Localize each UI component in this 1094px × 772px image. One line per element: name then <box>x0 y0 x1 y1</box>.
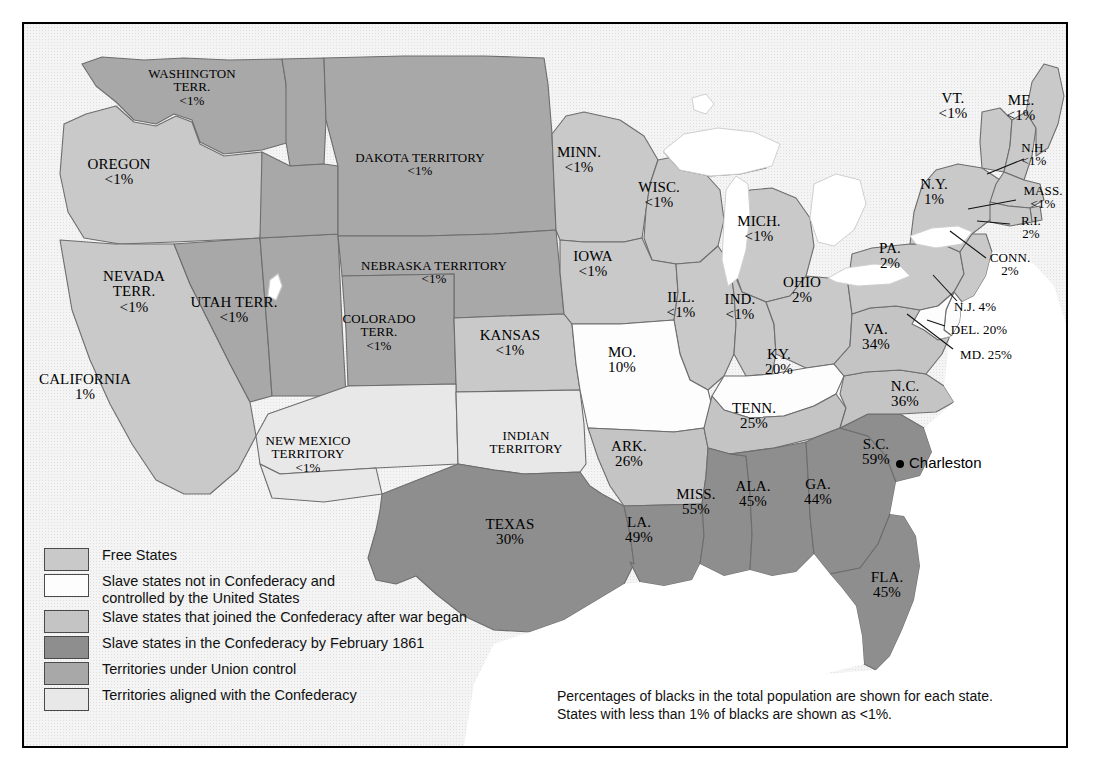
state-label-oregon: OREGON<1% <box>87 157 150 188</box>
state-name: UTAH TERR. <box>190 295 277 310</box>
state-name: N.J. 4% <box>954 299 996 314</box>
state-label-iowa: IOWA<1% <box>573 249 613 280</box>
state-percent: <1% <box>667 305 696 320</box>
state-percent: <1% <box>103 300 165 315</box>
map-frame: WASHINGTON TERR.<1%OREGON<1%CALIFORNIA1%… <box>22 22 1068 748</box>
state-percent: 49% <box>625 530 653 545</box>
state-name: WASHINGTON TERR. <box>148 67 235 94</box>
state-percent: 55% <box>676 502 715 517</box>
state-percent: <1% <box>1021 154 1047 167</box>
state-label-sc: S.C.59% <box>862 437 890 468</box>
state-label-ny: N.Y.1% <box>920 177 948 208</box>
state-percent: 26% <box>611 454 647 469</box>
legend-label: Slave states not in Confederacy andcontr… <box>102 573 335 607</box>
state-label-nj: N.J. 4% <box>954 298 996 314</box>
state-name: NEW MEXICO TERRITORY <box>266 434 351 461</box>
state-name: GA. <box>804 477 832 492</box>
state-name: TENN. <box>732 401 776 416</box>
state-label-nevada-terr: NEVADA TERR.<1% <box>103 269 165 315</box>
note-line-1: Percentages of blacks in the total popul… <box>557 687 993 705</box>
legend-item-free-states: Free States <box>44 547 544 571</box>
state-percent: 2% <box>1021 227 1041 240</box>
state-label-wisc: WISC.<1% <box>638 180 680 211</box>
state-name: VA. <box>862 322 890 337</box>
state-percent: 25% <box>732 416 776 431</box>
legend-label: Territories aligned with the Confederacy <box>102 687 357 704</box>
state-name: N.C. <box>891 379 920 394</box>
state-name: MICH. <box>737 214 780 229</box>
state-percent: <1% <box>361 272 507 285</box>
legend-label: Slave states that joined the Confederacy… <box>102 609 467 626</box>
state-name: MD. 25% <box>960 347 1012 362</box>
legend-label: Territories under Union control <box>102 661 296 678</box>
state-label-minn: MINN.<1% <box>557 145 601 176</box>
state-label-ala: ALA.45% <box>736 479 771 510</box>
legend-swatch-confederacy-feb <box>44 636 89 659</box>
state-percent: <1% <box>148 94 235 107</box>
state-percent: <1% <box>939 106 968 121</box>
state-label-vt: VT.<1% <box>939 91 968 122</box>
state-label-conn: CONN.2% <box>990 251 1031 278</box>
state-label-mo: MO.10% <box>608 345 636 376</box>
city-dot-icon <box>896 460 904 468</box>
legend-item-slave-union: Slave states not in Confederacy andcontr… <box>44 573 544 607</box>
state-label-ri: R.I.2% <box>1021 214 1041 241</box>
state-label-md: MD. 25% <box>960 346 1012 362</box>
state-label-mass: MASS.<1% <box>1023 184 1062 211</box>
state-label-utah-terr: UTAH TERR.<1% <box>190 295 277 326</box>
state-percent: 45% <box>871 585 904 600</box>
state-dakota-territory <box>324 56 556 236</box>
state-label-del: DEL. 20% <box>951 321 1007 337</box>
state-name: FLA. <box>871 570 904 585</box>
legend-swatch-free-states <box>44 548 89 571</box>
legend-item-union-territory: Territories under Union control <box>44 661 544 685</box>
state-name: IND. <box>725 292 756 307</box>
map-note: Percentages of blacks in the total popul… <box>557 687 993 723</box>
state-percent: <1% <box>480 343 541 358</box>
state-label-colorado-terr: COLORADO TERR.<1% <box>342 312 415 352</box>
state-percent: <1% <box>342 339 415 352</box>
state-name: TEXAS <box>486 517 535 532</box>
state-percent: 1% <box>39 387 131 402</box>
state-label-fla: FLA.45% <box>871 570 904 601</box>
legend-swatch-confederate-territory <box>44 688 89 711</box>
state-percent: 2% <box>879 256 901 271</box>
state-label-ind: IND.<1% <box>725 292 756 323</box>
state-washington-east <box>282 58 326 166</box>
state-percent: <1% <box>573 264 613 279</box>
state-label-ga: GA.44% <box>804 477 832 508</box>
state-name: NEVADA TERR. <box>103 269 165 300</box>
state-label-miss: MISS.55% <box>676 487 715 518</box>
state-name: IOWA <box>573 249 613 264</box>
state-label-dakota-territory: DAKOTA TERRITORY<1% <box>355 151 485 178</box>
state-name: WISC. <box>638 180 680 195</box>
state-name: INDIAN TERRITORY <box>490 429 563 456</box>
state-name: ARK. <box>611 439 647 454</box>
legend-item-confederacy-feb: Slave states in the Confederacy by Febru… <box>44 635 544 659</box>
state-percent: 45% <box>736 494 771 509</box>
state-percent: 34% <box>862 337 890 352</box>
state-label-nc: N.C.36% <box>891 379 920 410</box>
state-percent: 10% <box>608 360 636 375</box>
state-label-va: VA.34% <box>862 322 890 353</box>
state-name: N.H. <box>1021 141 1047 154</box>
state-percent: 36% <box>891 394 920 409</box>
state-label-tenn: TENN.25% <box>732 401 776 432</box>
state-label-me: ME.<1% <box>1007 93 1036 124</box>
state-percent: 59% <box>862 452 890 467</box>
state-percent: <1% <box>1023 197 1062 210</box>
state-percent: <1% <box>266 461 351 474</box>
state-percent: <1% <box>355 164 485 177</box>
state-name: ME. <box>1007 93 1036 108</box>
state-percent: <1% <box>638 195 680 210</box>
state-label-ky: KY.20% <box>765 347 793 378</box>
legend-item-confederate-territory: Territories aligned with the Confederacy <box>44 687 544 711</box>
state-label-kansas: KANSAS<1% <box>480 328 541 359</box>
state-name: PA. <box>879 241 901 256</box>
state-percent: 2% <box>783 290 821 305</box>
state-label-mich: MICH.<1% <box>737 214 780 245</box>
state-label-nebraska-territory: NEBRASKA TERRITORY<1% <box>361 259 507 286</box>
state-name: N.Y. <box>920 177 948 192</box>
legend-item-joined-after: Slave states that joined the Confederacy… <box>44 609 544 633</box>
state-label-nh: N.H.<1% <box>1021 141 1047 168</box>
